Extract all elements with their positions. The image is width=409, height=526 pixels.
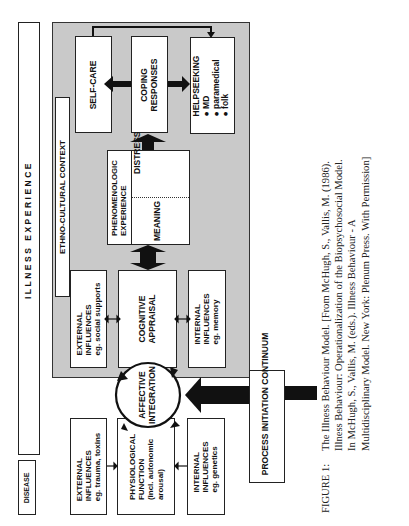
figure-label: FIGURE 1: — [319, 451, 332, 513]
affective-integration-label: AFFECTIVE INTEGRATION — [138, 366, 158, 424]
memory-appraisal-small-arrow-icon — [175, 316, 190, 322]
feedback-arrowhead-icon — [207, 32, 215, 38]
coping-to-helpseeking-arrow-icon — [168, 76, 190, 92]
affective-integration-node: AFFECTIVE INTEGRATION — [116, 363, 180, 427]
genetics-physiological-small-arrow-icon — [175, 463, 187, 469]
phenomenologic-to-coping-arrow-icon — [130, 134, 166, 150]
social-appraisal-small-arrow-icon — [105, 316, 120, 322]
feedback-connector — [93, 27, 211, 36]
process-to-affective-arrow-icon — [185, 377, 249, 413]
phenomenologic-appraisal-double-arrow-icon — [130, 245, 166, 270]
figure-caption: FIGURE 1:The Illness Behaviour Model. [F… — [319, 13, 372, 513]
trauma-physiological-small-arrow-icon — [107, 463, 117, 469]
coping-to-self-care-arrow-icon — [104, 76, 131, 92]
